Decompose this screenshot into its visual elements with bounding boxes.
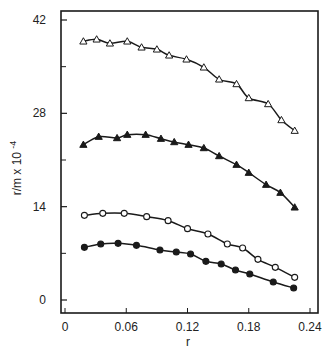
filled-circle-marker	[81, 244, 87, 250]
filled-triangle-marker	[216, 152, 223, 158]
series-filled-circles	[81, 240, 296, 291]
filled-triangle-marker	[263, 181, 270, 187]
y-axis-title-text: r/m x 10	[10, 149, 24, 196]
x-tick-label: 0	[62, 320, 69, 334]
x-tick-label: 0.24	[298, 320, 322, 334]
filled-circle-marker	[133, 242, 139, 248]
x-axis: 00.060.120.180.24	[62, 308, 322, 334]
filled-circle-marker	[291, 285, 297, 291]
open-circle-marker	[144, 214, 150, 220]
open-circle-marker	[100, 210, 106, 216]
series-layer	[80, 36, 299, 291]
y-tick-label: 0	[39, 293, 46, 307]
open-circle-marker	[240, 245, 246, 251]
series-open-circles	[81, 210, 297, 280]
y-tick-label: 42	[33, 13, 47, 27]
filled-circle-marker	[247, 271, 253, 277]
x-axis-title: r	[186, 335, 190, 349]
open-circle-marker	[292, 274, 298, 280]
filled-triangle-marker	[80, 141, 87, 147]
filled-circle-marker	[203, 258, 209, 264]
y-axis-title: r/m x 10 -4	[8, 141, 24, 196]
filled-circle-marker	[232, 267, 238, 273]
x-tick-label: 0.18	[237, 320, 261, 334]
plot-frame	[61, 11, 318, 313]
open-triangle-marker	[200, 64, 207, 70]
y-axis-title-exponent: -4	[8, 141, 18, 149]
filled-triangle-marker	[277, 189, 284, 195]
filled-circle-marker	[218, 261, 224, 267]
open-circle-marker	[121, 210, 127, 216]
filled-circle-marker	[157, 247, 163, 253]
open-circle-marker	[224, 241, 230, 247]
filled-circle-marker	[115, 240, 121, 246]
filled-triangle-marker	[245, 169, 252, 175]
open-circle-marker	[81, 212, 87, 218]
x-tick-label: 0.12	[176, 320, 200, 334]
open-circle-marker	[255, 256, 261, 262]
x-tick-label: 0.06	[115, 320, 139, 334]
y-axis: 0142842	[33, 13, 67, 307]
open-circle-marker	[165, 218, 171, 224]
filled-circle-marker	[98, 241, 104, 247]
open-circle-marker	[272, 264, 278, 270]
series-filled-triangles	[80, 131, 299, 210]
open-triangle-marker	[216, 76, 223, 82]
filled-circle-marker	[173, 249, 179, 255]
open-circle-marker	[205, 231, 211, 237]
open-circle-marker	[185, 226, 191, 232]
fit-curve	[83, 39, 294, 130]
y-tick-label: 14	[33, 200, 47, 214]
filled-circle-marker	[270, 279, 276, 285]
y-tick-label: 28	[33, 106, 47, 120]
filled-circle-marker	[188, 251, 194, 257]
chart: 0142842 00.060.120.180.24 r r/m x 10 -4	[0, 0, 327, 353]
series-open-triangles	[80, 36, 299, 134]
svg-text:r/m x 10 -4: r/m x 10 -4	[8, 141, 24, 196]
filled-triangle-marker	[233, 161, 240, 167]
fit-curve	[84, 243, 293, 288]
